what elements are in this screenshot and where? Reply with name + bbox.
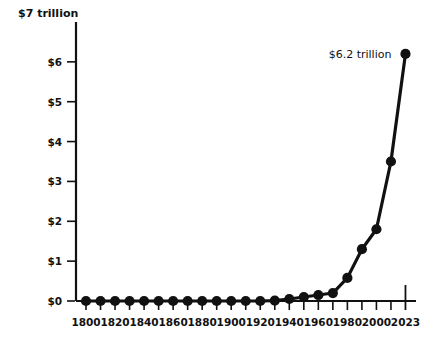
data-point xyxy=(255,296,265,306)
data-point xyxy=(270,296,280,306)
data-point xyxy=(124,296,134,306)
x-tick-label: 1940 xyxy=(275,316,304,328)
y-tick-label: $2 xyxy=(47,215,62,227)
x-tick-label: 1920 xyxy=(246,316,275,328)
data-point xyxy=(400,49,410,59)
y-tick-label: $5 xyxy=(47,96,62,108)
data-point xyxy=(139,296,149,306)
x-tick-label: 1880 xyxy=(188,316,217,328)
data-point xyxy=(212,296,222,306)
x-tick-label: 1840 xyxy=(129,316,158,328)
data-point xyxy=(328,288,338,298)
y-tick-label: $4 xyxy=(47,136,62,148)
data-point xyxy=(386,156,396,166)
x-tick-label: 1980 xyxy=(333,316,362,328)
data-point xyxy=(95,296,105,306)
data-point xyxy=(197,296,207,306)
y-tick-label: $6 xyxy=(47,56,62,68)
data-point xyxy=(313,290,323,300)
x-axis-tick-labels: 1800182018401860188019001920194019601980… xyxy=(71,316,420,328)
data-point xyxy=(81,296,91,306)
data-point xyxy=(371,224,381,234)
line-chart: $0$1$2$3$4$5$6 $7 trillion 1800182018401… xyxy=(0,0,434,348)
x-tick-label: 2000 xyxy=(362,316,391,328)
x-tick-label: 1860 xyxy=(159,316,188,328)
y-tick-label: $1 xyxy=(47,255,62,267)
data-point xyxy=(241,296,251,306)
x-tick-label: 1900 xyxy=(217,316,246,328)
data-point xyxy=(154,296,164,306)
data-point xyxy=(299,292,309,302)
data-point xyxy=(342,273,352,283)
data-point xyxy=(284,294,294,304)
y-tick-label: $3 xyxy=(47,175,62,187)
data-point xyxy=(110,296,120,306)
data-point xyxy=(357,244,367,254)
x-tick-label: 1960 xyxy=(304,316,333,328)
y-axis-title: $7 trillion xyxy=(18,7,78,20)
annotations: $6.2 trillion xyxy=(329,48,392,61)
chart-container: $0$1$2$3$4$5$6 $7 trillion 1800182018401… xyxy=(0,0,434,348)
x-tick-label: 1800 xyxy=(71,316,100,328)
x-tick-label: 2023 xyxy=(391,316,420,328)
annotation-final-value: $6.2 trillion xyxy=(329,48,392,61)
y-tick-label: $0 xyxy=(47,295,62,307)
x-tick-label: 1820 xyxy=(100,316,129,328)
data-point xyxy=(183,296,193,306)
data-point xyxy=(226,296,236,306)
data-point xyxy=(168,296,178,306)
